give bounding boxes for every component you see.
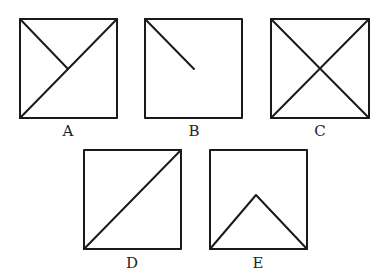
label-d: D — [126, 254, 138, 272]
half-diagonal-b — [145, 19, 194, 69]
peak-lines-e — [210, 195, 307, 249]
label-a: A — [62, 122, 74, 140]
figure-options-diagram: A B C D E — [0, 0, 386, 280]
label-e: E — [253, 254, 264, 272]
figure-e: E — [210, 150, 307, 272]
figure-b: B — [145, 19, 242, 140]
label-c: C — [314, 122, 325, 140]
diagonal-d — [84, 150, 181, 249]
figure-d: D — [84, 150, 181, 272]
label-b: B — [188, 122, 199, 140]
figure-c: C — [271, 19, 369, 140]
figure-a: A — [20, 19, 117, 140]
half-diagonal-a — [20, 19, 68, 69]
